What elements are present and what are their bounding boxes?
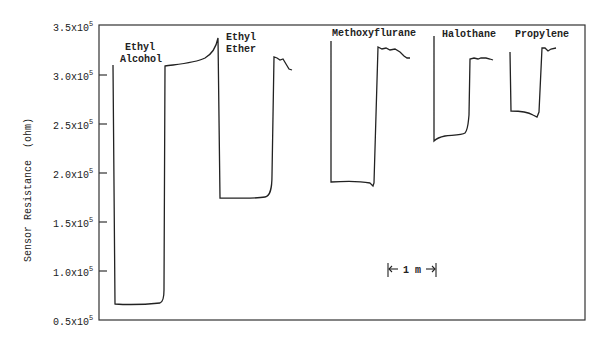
y-axis-label: Sensor Resistance (ohm): [23, 118, 34, 262]
label-ethyl-ether-1: Ethyl: [226, 32, 256, 43]
svg-text:3.5x105: 3.5x105: [53, 20, 93, 34]
plot-frame: [99, 25, 585, 320]
svg-text:0.5x105: 0.5x105: [53, 314, 93, 328]
label-methoxyflurane: Methoxyflurane: [332, 28, 416, 39]
svg-text:1.0x105: 1.0x105: [53, 265, 93, 279]
svg-text:1.5x105: 1.5x105: [53, 216, 93, 230]
label-ethyl-ether-2: Ether: [226, 44, 256, 55]
scale-bar-label: 1 m: [403, 265, 421, 276]
y-ticks: [99, 75, 107, 271]
svg-text:2.0x105: 2.0x105: [53, 167, 93, 181]
y-tick-labels: 3.5x105 3.0x105 2.5x105 2.0x105 1.5x105 …: [53, 20, 93, 328]
label-ethyl-alcohol-2: Alcohol: [120, 54, 162, 65]
svg-text:3.0x105: 3.0x105: [53, 69, 93, 83]
label-propylene: Propylene: [515, 29, 569, 40]
label-halothane: Halothane: [442, 29, 496, 40]
sensor-trace: [113, 36, 556, 304]
label-ethyl-alcohol-1: Ethyl: [125, 42, 155, 53]
chart: 3.5x105 3.0x105 2.5x105 2.0x105 1.5x105 …: [0, 0, 604, 345]
svg-text:2.5x105: 2.5x105: [53, 118, 93, 132]
